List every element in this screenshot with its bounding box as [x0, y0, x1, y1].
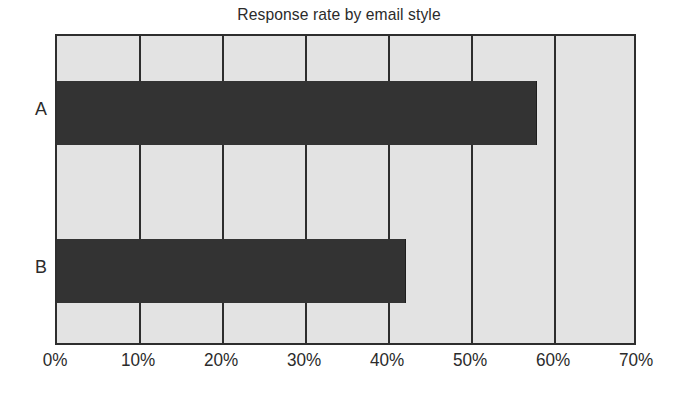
x-axis-tick-label: 0%	[19, 349, 91, 371]
x-axis-tick-label: 30%	[268, 349, 340, 371]
plot-area	[55, 34, 636, 345]
x-axis-tick-label: 20%	[185, 349, 257, 371]
x-axis-tick-label: 60%	[517, 349, 589, 371]
gridline	[554, 36, 556, 343]
x-axis-tick-label: 70%	[600, 349, 672, 371]
bar	[57, 81, 537, 145]
x-axis-tick-label: 50%	[434, 349, 506, 371]
x-axis-tick-label: 10%	[102, 349, 174, 371]
chart-title: Response rate by email style	[27, 5, 651, 25]
bar-chart: Response rate by email style AB 0%10%20%…	[0, 0, 678, 396]
bar	[57, 239, 406, 303]
x-axis-labels: 0%10%20%30%40%50%60%70%	[0, 349, 678, 381]
y-axis-tick-label: B	[9, 256, 47, 278]
y-axis-labels: AB	[0, 34, 47, 345]
x-axis-tick-label: 40%	[351, 349, 423, 371]
y-axis-tick-label: A	[9, 98, 47, 120]
